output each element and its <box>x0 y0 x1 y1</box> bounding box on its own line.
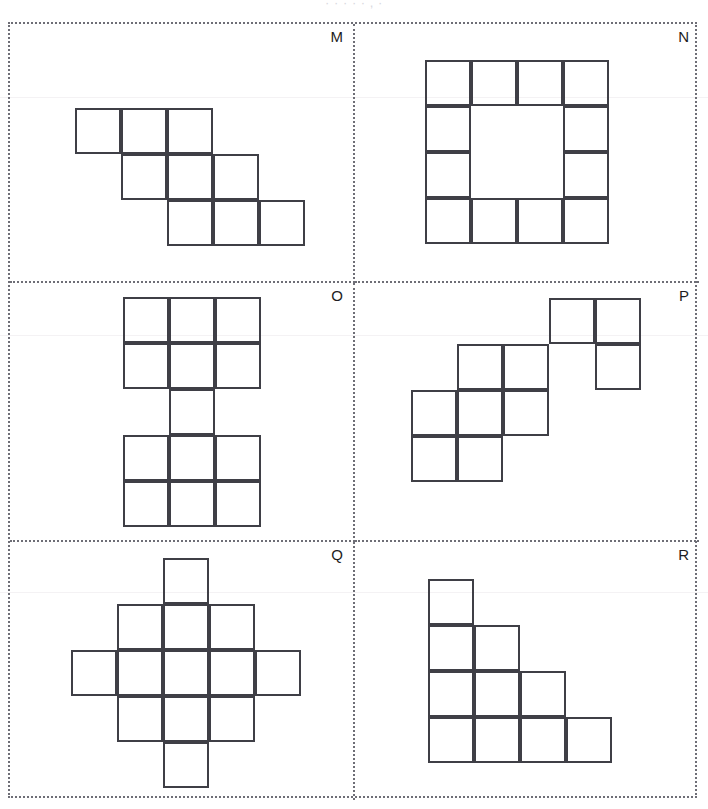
grid-cell <box>563 60 609 106</box>
grid-cell <box>428 625 474 671</box>
grid-cell <box>503 390 549 436</box>
grid-cell <box>428 717 474 763</box>
grid-cell <box>411 390 457 436</box>
panel-m[interactable]: M <box>10 24 355 283</box>
shape-m <box>75 108 305 246</box>
grid-cell <box>121 154 167 200</box>
grid-cell <box>163 604 209 650</box>
grid-cell <box>215 297 261 343</box>
grid-cell <box>595 344 641 390</box>
panel-p[interactable]: P <box>355 283 699 542</box>
grid-cell <box>71 650 117 696</box>
grid-cell <box>163 650 209 696</box>
grid-cell <box>163 558 209 604</box>
grid-cell <box>169 389 215 435</box>
grid-cell <box>474 717 520 763</box>
grid-cell <box>167 154 213 200</box>
panel-q[interactable]: Q <box>10 542 355 800</box>
grid-cell <box>123 481 169 527</box>
panel-label-m: M <box>331 29 344 44</box>
shape-r <box>428 579 612 763</box>
header-text-remnant: · · · · · , · <box>0 0 708 14</box>
shape-n <box>425 60 609 244</box>
grid-cell <box>215 435 261 481</box>
grid-cell <box>123 435 169 481</box>
worksheet-frame: M N O P Q R <box>8 22 697 798</box>
grid-cell <box>163 696 209 742</box>
grid-cell <box>425 152 471 198</box>
grid-cell <box>520 717 566 763</box>
grid-cell <box>520 671 566 717</box>
grid-cell <box>457 390 503 436</box>
grid-cell <box>471 60 517 106</box>
grid-cell <box>563 152 609 198</box>
grid-cell <box>425 60 471 106</box>
grid-cell <box>213 154 259 200</box>
grid-cell <box>123 297 169 343</box>
grid-cell <box>169 297 215 343</box>
panel-r[interactable]: R <box>355 542 699 800</box>
grid-cell <box>209 650 255 696</box>
panel-o[interactable]: O <box>10 283 355 542</box>
shape-o <box>123 297 261 527</box>
grid-cell <box>428 579 474 625</box>
grid-cell <box>563 198 609 244</box>
grid-cell <box>163 742 209 788</box>
grid-cell <box>517 60 563 106</box>
grid-cell <box>117 650 163 696</box>
grid-cell <box>169 481 215 527</box>
grid-cell <box>411 436 457 482</box>
grid-cell <box>75 108 121 154</box>
panel-n[interactable]: N <box>355 24 699 283</box>
panel-label-p: P <box>679 288 689 303</box>
grid-cell <box>517 198 563 244</box>
grid-cell <box>209 604 255 650</box>
panel-label-q: Q <box>331 547 343 562</box>
grid-cell <box>215 343 261 389</box>
grid-cell <box>169 343 215 389</box>
panel-label-r: R <box>678 547 689 562</box>
grid-cell <box>428 671 474 717</box>
panel-label-n: N <box>678 29 689 44</box>
grid-cell <box>215 481 261 527</box>
grid-cell <box>549 298 595 344</box>
grid-cell <box>474 671 520 717</box>
grid-cell <box>117 604 163 650</box>
grid-cell <box>167 108 213 154</box>
grid-cell <box>121 108 167 154</box>
grid-cell <box>167 200 213 246</box>
grid-cell <box>255 650 301 696</box>
grid-cell <box>474 625 520 671</box>
grid-cell <box>425 106 471 152</box>
grid-cell <box>566 717 612 763</box>
grid-cell <box>503 344 549 390</box>
shape-p <box>411 298 641 528</box>
grid-cell <box>595 298 641 344</box>
grid-cell <box>259 200 305 246</box>
grid-cell <box>425 198 471 244</box>
grid-cell <box>563 106 609 152</box>
grid-cell <box>471 198 517 244</box>
grid-cell <box>213 200 259 246</box>
grid-cell <box>117 696 163 742</box>
grid-cell <box>123 343 169 389</box>
grid-cell <box>457 436 503 482</box>
panel-label-o: O <box>331 288 343 303</box>
grid-cell <box>209 696 255 742</box>
grid-cell <box>457 344 503 390</box>
shape-q <box>71 558 301 788</box>
grid-cell <box>169 435 215 481</box>
